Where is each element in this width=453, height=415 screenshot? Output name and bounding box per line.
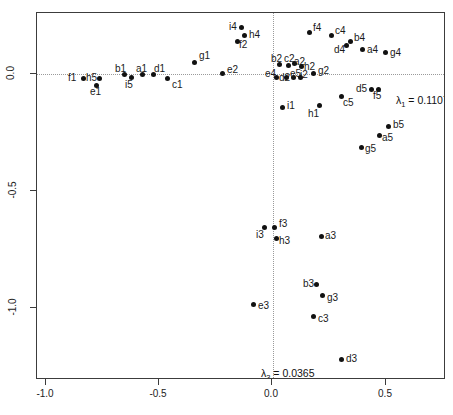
x-tick [45, 379, 46, 385]
data-point-label: i1 [287, 101, 295, 111]
data-point-label: e2 [227, 65, 238, 75]
data-point-label: b2 [271, 54, 282, 64]
data-point [329, 33, 334, 38]
data-point-label: g4 [390, 48, 401, 58]
data-point-label: a5 [382, 133, 393, 143]
data-point-label: h5 [86, 73, 97, 83]
data-point-label: e3 [258, 301, 269, 311]
data-point-label: d5 [356, 84, 367, 94]
plot-area: i4h4f2g1e2f1h5e1b1i5a1d1c1b2c2a2h2e4d2e5… [37, 13, 444, 378]
data-point [311, 71, 316, 76]
data-point-label: b5 [393, 120, 404, 130]
data-point [386, 124, 391, 129]
data-point-label: i4 [229, 22, 237, 32]
data-point-label: b4 [354, 33, 365, 43]
data-point [383, 50, 388, 55]
data-point-label: c4 [335, 26, 346, 36]
scatter-plot-figure: 0.0-0.5-1.0 -1.0-0.50.00.5 i4h4f2g1e2f1h… [0, 0, 453, 415]
data-point-label: i5 [125, 80, 133, 90]
data-point [242, 33, 247, 38]
data-point-label: g3 [327, 293, 338, 303]
eigenvalue-3: λ3 = 0.0365 [261, 367, 315, 378]
data-point-label: g2 [318, 66, 329, 76]
x-tick-label: -0.5 [149, 388, 166, 399]
plot-frame: i4h4f2g1e2f1h5e1b1i5a1d1c1b2c2a2h2e4d2e5… [36, 12, 445, 379]
data-point [320, 293, 325, 298]
data-point [274, 236, 279, 241]
data-point-label: f1 [68, 73, 76, 83]
data-point-label: e4 [265, 69, 276, 79]
data-point-label: i3 [256, 230, 264, 240]
data-point [377, 133, 382, 138]
data-point-label: d2 [279, 73, 290, 83]
data-point-label: c1 [172, 80, 183, 90]
data-point [165, 76, 170, 81]
data-point-label: h3 [279, 236, 290, 246]
x-tick [385, 379, 386, 385]
eigenvalue-1: λ1 = 0.1107 [396, 94, 444, 109]
data-point-label: d4 [334, 45, 345, 55]
data-point [317, 103, 322, 108]
data-point [272, 225, 277, 230]
x-tick [158, 379, 159, 385]
data-point [192, 60, 197, 65]
y-tick-label: -1.0 [7, 298, 18, 315]
data-point [359, 145, 364, 150]
data-point-label: g5 [365, 144, 376, 154]
x-tick-label: 0.0 [264, 388, 278, 399]
data-point [311, 314, 316, 319]
data-point [360, 47, 365, 52]
data-point-label: d3 [346, 354, 357, 364]
data-point [319, 234, 324, 239]
data-point-label: f5 [373, 91, 381, 101]
data-point [307, 30, 312, 35]
data-point [220, 71, 225, 76]
data-point-label: g1 [199, 51, 210, 61]
data-point [97, 76, 102, 81]
data-point-label: i2 [300, 70, 308, 80]
data-point-label: d1 [154, 64, 165, 74]
data-point [81, 76, 86, 81]
data-point [314, 282, 319, 287]
data-point-label: a4 [367, 45, 378, 55]
y-tick-label: 0.0 [5, 66, 16, 80]
data-point-label: h1 [308, 109, 319, 119]
gridline-horizontal-zero [37, 74, 444, 75]
data-point-label: c3 [318, 314, 329, 324]
data-point-label: h4 [249, 30, 260, 40]
data-point-label: f4 [313, 23, 321, 33]
data-point-label: b1 [115, 64, 126, 74]
data-point [251, 302, 256, 307]
x-tick-label: -1.0 [36, 388, 53, 399]
x-tick [271, 379, 272, 385]
data-point-label: a3 [325, 231, 336, 241]
data-point-label: c5 [343, 98, 354, 108]
data-point [339, 357, 344, 362]
y-tick-label: -0.5 [7, 181, 18, 198]
data-point-label: f3 [279, 219, 287, 229]
data-point-label: b3 [303, 279, 314, 289]
data-point-label: f2 [239, 40, 247, 50]
x-tick-label: 0.5 [378, 388, 392, 399]
data-point [280, 105, 285, 110]
data-point-label: e1 [90, 87, 101, 97]
data-point [239, 25, 244, 30]
lambda-value: = 0.1107 [405, 94, 444, 106]
data-point-label: a1 [136, 64, 147, 74]
lambda-value: = 0.0365 [270, 367, 314, 378]
